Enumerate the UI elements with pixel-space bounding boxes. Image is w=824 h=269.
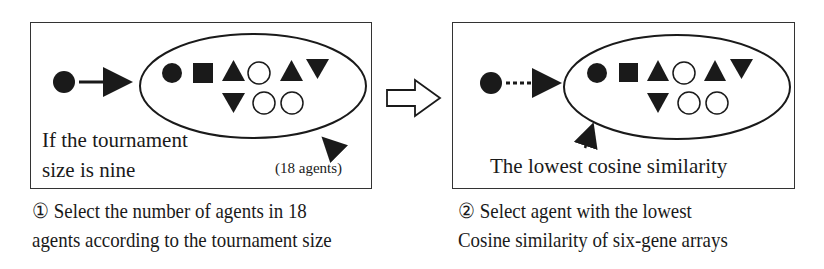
- step2-number: ②: [458, 199, 475, 223]
- tournament-size-label-2: size is nine: [42, 157, 135, 183]
- group-size-label: (18 agents): [275, 160, 342, 177]
- step2-caption-line1: ② Select agent with the lowest: [458, 197, 692, 226]
- step1-number: ①: [32, 199, 49, 223]
- step1-caption-line2: agents according to the tournament size: [32, 226, 332, 255]
- hollow-right-arrow-icon: [387, 80, 440, 116]
- lowest-similarity-label: The lowest cosine similarity: [490, 153, 727, 179]
- step1-caption-line1: ① Select the number of agents in 18: [32, 197, 307, 226]
- tournament-size-label-1: If the tournament: [42, 127, 188, 153]
- step2-caption-line2: Cosine similarity of six-gene arrays: [458, 226, 728, 255]
